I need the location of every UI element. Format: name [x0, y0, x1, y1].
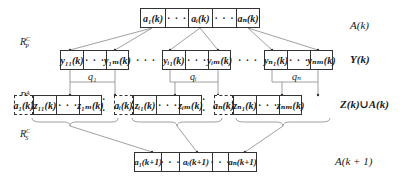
cell-ellipsis: · · · [256, 95, 279, 115]
cell-a1: a₁(k) [140, 8, 165, 28]
cell-a1-copy: a₁(k) [14, 95, 33, 115]
cell-ellipsis: · · · [165, 8, 188, 28]
label-a-k: A(k) [350, 19, 369, 31]
z-group-i: aᵢ(k) zᵢ₁(k) · · · zᵢₘ(k) [114, 95, 202, 115]
label-qn: qₙ [292, 71, 301, 82]
cell-ellipsis: · · · [212, 152, 228, 172]
between-ellipsis: · · [102, 95, 114, 115]
cell-ellipsis: · · · [161, 152, 179, 172]
cell-yim: yᵢₘ(k) [208, 50, 231, 70]
cell-ynm: yₙₘ(k) [310, 50, 333, 70]
label-q1: q₁ [88, 71, 96, 82]
cell-ellipsis: · · · [56, 95, 79, 115]
cell-ellipsis: · · · [185, 50, 208, 70]
cell-yi1: yᵢ₁(k) [162, 50, 185, 70]
cell-z11: z₁₁(k) [33, 95, 56, 115]
label-z-union-a: Z(k)∪A(k) [340, 98, 389, 111]
cell-ai-copy: aᵢ(k) [114, 95, 133, 115]
label-recombination-operator: RCP [20, 36, 29, 49]
cell-an-next: aₙ(k+1) [228, 152, 257, 172]
between-ellipsis: · · · [234, 50, 262, 70]
cell-ellipsis: · · · [156, 95, 179, 115]
y-group-i: yᵢ₁(k) · · · yᵢₘ(k) [162, 50, 231, 70]
cell-an-copy: aₙ(k) [214, 95, 233, 115]
population-a-k: a₁(k) · · · aᵢ(k) · · · aₙ(k) [140, 8, 260, 28]
cell-znm: zₙₘ(k) [279, 95, 302, 115]
y-group-1: y₁₁(k) · · · y₁ₘ(k) [60, 50, 129, 70]
cell-zn1: zₙ₁(k) [233, 95, 256, 115]
cell-zi1: zᵢ₁(k) [133, 95, 156, 115]
z-group-n: aₙ(k) zₙ₁(k) · · · zₙₘ(k) [214, 95, 302, 115]
y-group-n: yₙ₁(k) · · · yₙₘ(k) [264, 50, 333, 70]
cell-ellipsis: · · · [212, 8, 236, 28]
label-a-k-plus-1: A(k + 1) [335, 155, 372, 167]
label-y-k: Y(k) [350, 53, 370, 65]
label-selection-operator: RCS [20, 128, 28, 141]
cell-yn1: yₙ₁(k) [264, 50, 287, 70]
cell-a1-next: a₁(k+1) [134, 152, 161, 172]
z-group-1: a₁(k) z₁₁(k) · · · z₁ₘ(k) [14, 95, 102, 115]
cell-zim: zᵢₘ(k) [179, 95, 202, 115]
population-a-k-plus-1: a₁(k+1) · · · aᵢ(k+1) · · · aₙ(k+1) [134, 152, 257, 172]
cell-ai: aᵢ(k) [188, 8, 212, 28]
cell-ai-next: aᵢ(k+1) [179, 152, 212, 172]
cell-z1m: z₁ₘ(k) [79, 95, 102, 115]
between-ellipsis: · · · [132, 50, 160, 70]
cell-ellipsis: · · · [83, 50, 106, 70]
cell-an: aₙ(k) [236, 8, 260, 28]
label-qi: qᵢ [190, 71, 197, 82]
cell-y1m: y₁ₘ(k) [106, 50, 129, 70]
cell-y11: y₁₁(k) [60, 50, 83, 70]
